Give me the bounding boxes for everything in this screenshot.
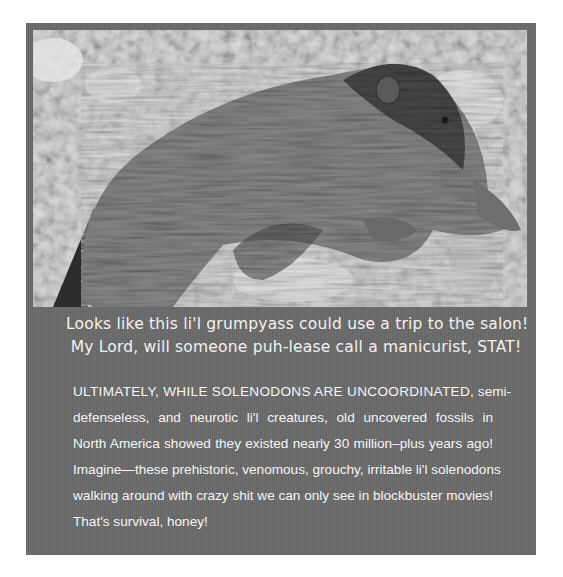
caption-line: My Lord, will someone puh-lease call a m… xyxy=(66,336,526,359)
body-line: That's survival, honey! xyxy=(73,509,493,535)
body-line: walking around with crazy shit we can on… xyxy=(73,483,493,509)
photo-caption: Looks like this li'l grumpyass could use… xyxy=(66,313,526,359)
body-line: ULTIMATELY, WHILE SOLENODONS ARE UNCOORD… xyxy=(73,379,493,405)
sidebar-panel: Looks like this li'l grumpyass could use… xyxy=(26,23,536,555)
body-line: North America showed they existed nearly… xyxy=(73,431,493,457)
body-line: Imagine—these prehistoric, venomous, gro… xyxy=(73,457,493,483)
body-line: defenseless, and neurotic li'l creatures… xyxy=(73,405,493,431)
caption-line: Looks like this li'l grumpyass could use… xyxy=(66,313,526,336)
body-paragraph: ULTIMATELY, WHILE SOLENODONS ARE UNCOORD… xyxy=(73,379,493,535)
photo-image xyxy=(33,30,527,307)
lead-in-caps: ULTIMATELY, WHILE SOLENODONS ARE UNCOORD… xyxy=(73,384,474,399)
body-line-text: semi- xyxy=(474,384,511,399)
solenodon-photo xyxy=(33,30,527,307)
